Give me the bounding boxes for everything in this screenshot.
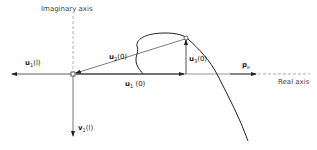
argument: (0): [197, 55, 207, 63]
u1-0-label: u1 (0): [125, 81, 145, 89]
subscript: e: [247, 64, 250, 70]
argument: (0): [117, 53, 127, 61]
argument: (0): [135, 80, 145, 88]
u1-l-label: u1(l): [25, 60, 41, 68]
origin-point: [71, 72, 75, 76]
operating-point: [184, 36, 188, 40]
argument: (l): [86, 124, 93, 132]
subscript: 1: [130, 83, 133, 89]
v1-l-label: v1(l): [78, 125, 93, 133]
imaginary-axis-label: Imaginary axis: [41, 6, 93, 13]
u2-0-label: u2(0): [109, 54, 127, 62]
pe-label: pe: [242, 62, 250, 70]
u2-0-arrow: [76, 39, 185, 73]
diagram-canvas: [0, 0, 317, 150]
real-axis-label: Real axis: [278, 79, 309, 86]
u3-0-label: u3(0): [189, 56, 207, 64]
argument: (l): [33, 59, 40, 67]
